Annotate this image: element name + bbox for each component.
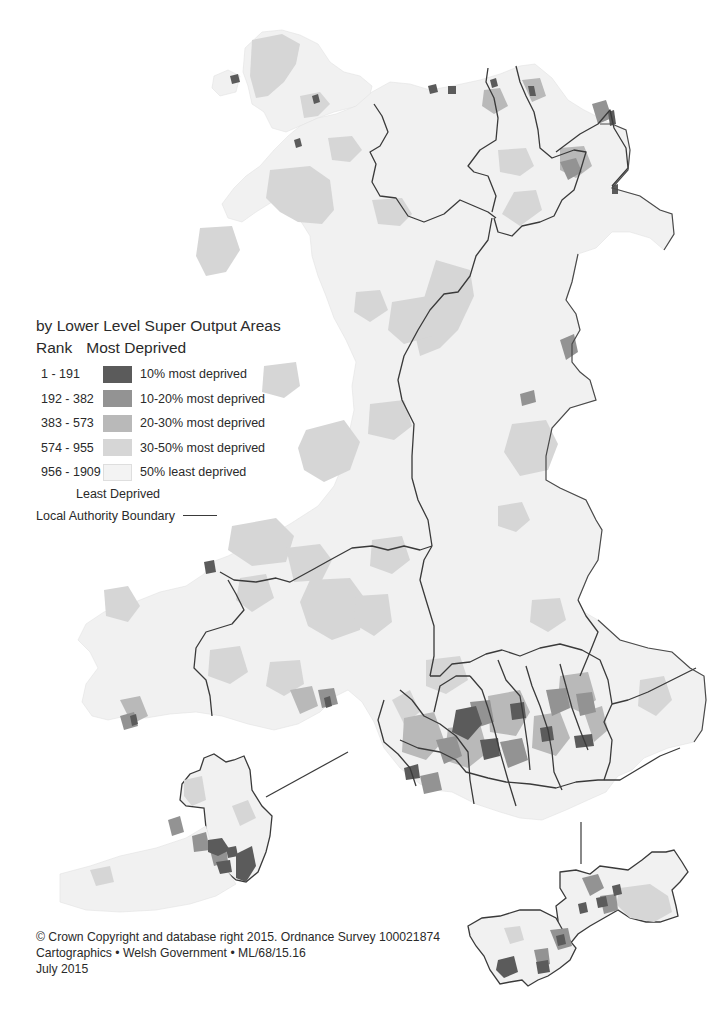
legend-class-label: 30-50% most deprived bbox=[140, 441, 265, 455]
legend-class-label: 20-30% most deprived bbox=[140, 416, 265, 430]
legend-range: 192 - 382 bbox=[36, 392, 103, 406]
legend-swatch bbox=[103, 415, 132, 432]
legend-range: 574 - 955 bbox=[36, 441, 103, 455]
legend-swatch bbox=[103, 439, 132, 456]
legend-range: 1 - 191 bbox=[36, 367, 103, 381]
legend-row-10-20: 192 - 382 10-20% most deprived bbox=[36, 387, 356, 412]
legend-rows: 1 - 191 10% most deprived 192 - 382 10-2… bbox=[36, 362, 356, 485]
legend-title: by Lower Level Super Output Areas bbox=[36, 316, 356, 336]
legend-swatch bbox=[103, 366, 132, 383]
legend-row-50-least: 956 - 1909 50% least deprived bbox=[36, 460, 356, 485]
legend-swatch bbox=[103, 464, 132, 481]
boundary-line-icon bbox=[183, 515, 217, 516]
legend-range: 383 - 573 bbox=[36, 416, 103, 430]
copyright-line: © Crown Copyright and database right 201… bbox=[36, 929, 440, 945]
legend-most-deprived-label: Most Deprived bbox=[86, 339, 186, 356]
legend-swatch bbox=[103, 390, 132, 407]
legend-rank-label: Rank bbox=[36, 338, 82, 358]
legend-class-label: 10-20% most deprived bbox=[140, 392, 265, 406]
legend-row-20-30: 383 - 573 20-30% most deprived bbox=[36, 411, 356, 436]
legend-least-deprived-label: Least Deprived bbox=[36, 485, 356, 503]
legend-class-label: 10% most deprived bbox=[140, 367, 247, 381]
legend-boundary-entry: Local Authority Boundary bbox=[36, 509, 356, 523]
legend-range: 956 - 1909 bbox=[36, 465, 103, 479]
legend-subhead: Rank Most Deprived bbox=[36, 338, 356, 358]
legend-row-10-most: 1 - 191 10% most deprived bbox=[36, 362, 356, 387]
date-line: July 2015 bbox=[36, 961, 440, 977]
legend-boundary-label: Local Authority Boundary bbox=[36, 509, 175, 523]
legend-row-30-50: 574 - 955 30-50% most deprived bbox=[36, 436, 356, 461]
map-credits: © Crown Copyright and database right 201… bbox=[36, 929, 440, 977]
map-legend: by Lower Level Super Output Areas Rank M… bbox=[36, 316, 356, 523]
legend-class-label: 50% least deprived bbox=[140, 465, 246, 479]
cartographics-line: Cartographics • Welsh Government • ML/68… bbox=[36, 945, 440, 961]
